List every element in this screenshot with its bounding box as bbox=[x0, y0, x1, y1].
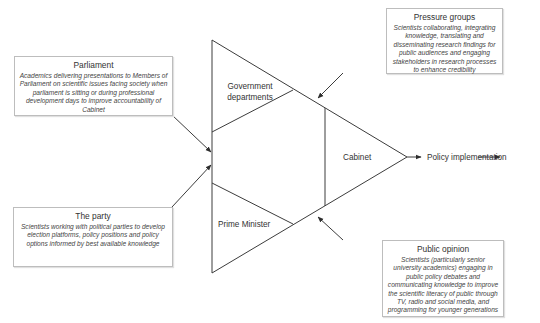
party-box: The party Scientists working with politi… bbox=[13, 207, 173, 267]
policy-implementation-label: Policy implementation bbox=[427, 152, 507, 163]
public-opinion-title: Public opinion bbox=[387, 244, 499, 254]
policy-triangle bbox=[212, 40, 407, 273]
prime-minister-label: Prime Minister bbox=[218, 219, 270, 230]
government-departments-label: Government departments bbox=[222, 81, 278, 103]
public-opinion-arrow bbox=[318, 217, 343, 240]
pressure-groups-arrow bbox=[318, 73, 343, 98]
cabinet-label: Cabinet bbox=[343, 152, 371, 163]
pressure-groups-box: Pressure groups Scientists collaborating… bbox=[386, 8, 503, 74]
pressure-groups-title: Pressure groups bbox=[391, 12, 498, 22]
parliament-description: Academics delivering presentations to Me… bbox=[19, 72, 168, 114]
pressure-groups-description: Scientists collaborating, integrating kn… bbox=[391, 24, 498, 74]
public-opinion-description: Scientists (particularly senior universi… bbox=[387, 256, 499, 315]
parliament-box: Parliament Academics delivering presenta… bbox=[14, 56, 173, 116]
label-line: Government bbox=[222, 81, 278, 92]
public-opinion-box: Public opinion Scientists (particularly … bbox=[382, 240, 504, 317]
prime-minister-divider bbox=[212, 183, 293, 224]
party-title: The party bbox=[18, 211, 168, 221]
party-arrow bbox=[172, 165, 211, 207]
label-line: departments bbox=[222, 92, 278, 103]
party-description: Scientists working with political partie… bbox=[18, 223, 168, 248]
parliament-title: Parliament bbox=[19, 60, 168, 70]
parliament-arrow bbox=[172, 115, 211, 152]
